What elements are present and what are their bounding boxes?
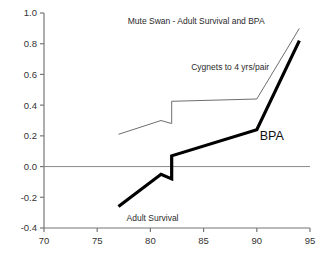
y-axis-tick-label: 0.0 bbox=[24, 161, 37, 172]
y-axis-tick-label: 1.0 bbox=[24, 7, 37, 18]
y-axis-tick-label: 0.8 bbox=[24, 38, 37, 49]
series-annotation: Adult Survival bbox=[127, 213, 179, 223]
x-axis-tick-label: 80 bbox=[145, 235, 156, 246]
series-annotation: Cygnets to 4 yrs/pair bbox=[191, 62, 269, 72]
bpa-annotation: BPA bbox=[260, 129, 285, 143]
x-axis-tick-label: 90 bbox=[252, 235, 263, 246]
x-axis-tick-label: 75 bbox=[92, 235, 103, 246]
y-axis-tick-label: -0.2 bbox=[21, 192, 37, 203]
x-axis-tick-label: 70 bbox=[39, 235, 50, 246]
y-axis-tick-label: 0.4 bbox=[24, 100, 37, 111]
y-axis-tick-label: -0.4 bbox=[21, 222, 37, 233]
x-axis-tick-label: 85 bbox=[198, 235, 209, 246]
y-axis-tick-label: 0.2 bbox=[24, 130, 37, 141]
chart-container: -0.4-0.20.00.20.40.60.81.0707580859095Mu… bbox=[0, 0, 323, 260]
x-axis-tick-label: 95 bbox=[305, 235, 316, 246]
series-line-cygnets-to-4-yrs-pair bbox=[118, 28, 299, 134]
mute-swan-line-chart: -0.4-0.20.00.20.40.60.81.0707580859095Mu… bbox=[0, 0, 323, 260]
y-axis-tick-label: 0.6 bbox=[24, 69, 37, 80]
chart-title: Mute Swan - Adult Survival and BPA bbox=[128, 16, 265, 26]
